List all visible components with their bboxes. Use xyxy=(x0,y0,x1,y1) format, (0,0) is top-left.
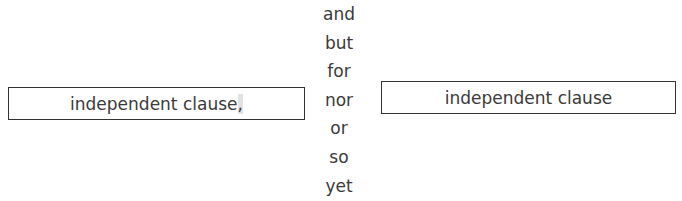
conjunction-yet: yet xyxy=(299,172,379,201)
conjunction-and: and xyxy=(299,0,379,29)
conjunction-nor: nor xyxy=(299,86,379,115)
right-independent-clause-box: independent clause xyxy=(381,81,676,114)
coordinating-conjunctions-list: and but for nor or so yet xyxy=(299,0,379,200)
conjunction-but: but xyxy=(299,29,379,58)
left-independent-clause-box: independent clause, xyxy=(8,87,305,120)
conjunction-so: so xyxy=(299,143,379,172)
conjunction-or: or xyxy=(299,114,379,143)
comma-highlight: , xyxy=(238,94,243,114)
conjunction-for: for xyxy=(299,57,379,86)
right-clause-text: independent clause xyxy=(445,88,612,108)
left-clause-text: independent clause xyxy=(70,94,237,114)
